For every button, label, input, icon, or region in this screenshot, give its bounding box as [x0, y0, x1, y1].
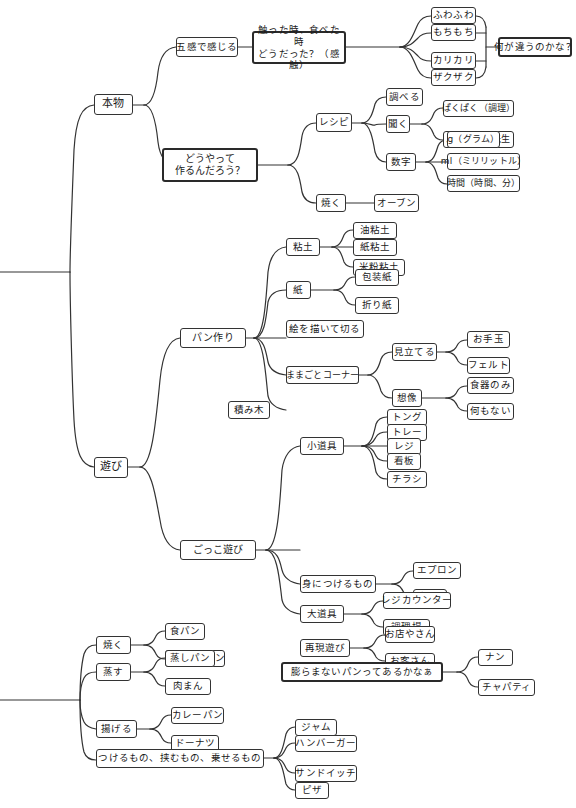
- node-honmono[interactable]: 本物: [94, 94, 133, 115]
- node-nani-ga-chigau[interactable]: 何が違うのかな？: [498, 37, 572, 57]
- node-jam[interactable]: ジャム: [295, 719, 337, 736]
- node-nikuman[interactable]: 肉まん: [165, 678, 211, 695]
- node-fuwafuwa[interactable]: ふわふわ: [431, 7, 476, 24]
- node-oven[interactable]: オーブン: [374, 194, 419, 212]
- node-yaku-asobi[interactable]: 焼く: [96, 636, 131, 654]
- node-yaku-honmono[interactable]: 焼く: [316, 194, 346, 212]
- node-gokko-asobi[interactable]: ごっこ遊び: [180, 540, 256, 560]
- node-mushipan-visible[interactable]: 蒸しパン: [165, 650, 215, 667]
- node-souzou[interactable]: 想像: [392, 389, 422, 407]
- node-omiseyasan[interactable]: お店やさん: [385, 626, 435, 643]
- node-kami-nendo[interactable]: 紙粘土: [353, 239, 397, 256]
- node-reji-counter[interactable]: レジカウンター: [383, 592, 451, 609]
- node-karikari[interactable]: カリカリ: [431, 52, 476, 69]
- node-douyatte-tsukuru[interactable]: どうやって 作るんだろう？: [162, 148, 258, 182]
- node-fukuramanai-pan[interactable]: 膨らまないパンってあるかなぁ: [281, 662, 443, 682]
- node-apron[interactable]: エプロン: [413, 562, 461, 579]
- node-pizza[interactable]: ピザ: [295, 782, 329, 799]
- node-nan[interactable]: ナン: [478, 649, 513, 666]
- node-mi-ni-tsukeru-mono[interactable]: 身につけるもの: [300, 575, 376, 593]
- node-kodougu[interactable]: 小道具: [300, 437, 344, 455]
- node-shokki-nomi[interactable]: 食器のみ: [467, 377, 514, 394]
- node-sandwich[interactable]: サンドイッチ: [295, 765, 357, 782]
- node-housoushi[interactable]: 包装紙: [355, 269, 399, 286]
- node-chapati[interactable]: チャパティ: [478, 679, 535, 696]
- node-kami[interactable]: 紙: [286, 281, 311, 299]
- node-curry-pan[interactable]: カレーパン: [171, 707, 224, 724]
- node-shokupan[interactable]: 食パン: [165, 623, 205, 640]
- node-mochimochi[interactable]: もちもち: [431, 24, 476, 41]
- node-nanimonai[interactable]: 何もない: [467, 403, 514, 420]
- node-sawatta-toki[interactable]: 触った時、食べた時 どうだった？（感触）: [252, 31, 346, 64]
- node-abura-nendo[interactable]: 油粘土: [353, 222, 397, 239]
- node-nendo[interactable]: 粘土: [286, 238, 320, 256]
- node-chirashi[interactable]: チラシ: [387, 471, 427, 488]
- node-otedama[interactable]: お手玉: [467, 331, 510, 348]
- node-ageru[interactable]: 揚げる: [96, 720, 137, 738]
- node-kanban[interactable]: 看板: [387, 453, 421, 470]
- node-gram[interactable]: g（グラム）: [447, 131, 500, 148]
- node-panzukuri[interactable]: パン作り: [180, 328, 246, 348]
- mindmap-canvas: 本物 遊び 五感で感じる 触った時、食べた時 どうだった？（感触） ふわふわ も…: [0, 0, 576, 808]
- node-jikan[interactable]: 時間（時間、分）: [447, 175, 520, 192]
- node-mitateru[interactable]: 見立てる: [392, 343, 437, 361]
- node-felt[interactable]: フェルト: [467, 357, 510, 374]
- node-shiraberu[interactable]: 調べる: [386, 88, 423, 106]
- node-pakupaku[interactable]: ぱくぱく（調理）: [443, 100, 514, 117]
- node-origami[interactable]: 折り紙: [355, 297, 399, 314]
- node-tsukeru-hasamu-noseru[interactable]: つけるもの、挟むもの、乗せるもの: [96, 749, 264, 768]
- node-hamburger[interactable]: ハンバーガー: [295, 735, 357, 752]
- node-recipe[interactable]: レシピ: [316, 113, 352, 132]
- node-e-wo-kaite-kiru-real[interactable]: 絵を描いて切る: [286, 320, 364, 338]
- node-kiku[interactable]: 聞く: [386, 115, 410, 133]
- node-ml[interactable]: ml（ミリリットル）: [447, 153, 520, 170]
- node-musu[interactable]: 蒸す: [96, 663, 131, 681]
- node-suuji[interactable]: 数字: [386, 153, 416, 171]
- node-oodougu[interactable]: 大道具: [300, 605, 344, 623]
- node-zakuzaku[interactable]: ザクザク: [431, 69, 476, 86]
- node-saigen-asobi[interactable]: 再現遊び: [300, 639, 350, 657]
- node-gokan-de-kanjiru[interactable]: 五感で感じる: [176, 37, 238, 57]
- node-mamagoto-corner-real[interactable]: ままごとコーナー: [286, 366, 359, 384]
- node-asobi[interactable]: 遊び: [94, 457, 128, 478]
- node-tsumiki[interactable]: 積み木: [228, 401, 270, 419]
